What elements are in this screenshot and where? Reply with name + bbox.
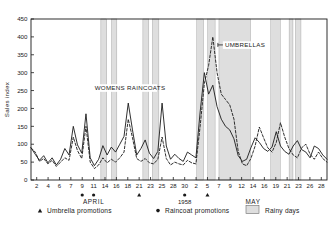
x-tick-label: 14 — [250, 183, 257, 189]
y-axis: 050100150200250300350400450Sales index — [3, 15, 34, 183]
y-tick-label: 450 — [17, 15, 28, 22]
y-tick-label: 350 — [17, 51, 28, 58]
raincoat-promotion-marker — [92, 193, 95, 196]
y-tick-label: 50 — [21, 158, 28, 165]
x-tick-label: 7 — [69, 183, 73, 189]
rainy-day-band — [143, 19, 149, 180]
y-tick-label: 400 — [17, 33, 28, 40]
x-tick-label: 28 — [318, 183, 325, 189]
legend-dot-icon — [156, 209, 160, 213]
annotation-label: UMBRELLAS — [225, 41, 265, 48]
plot-frame — [31, 19, 327, 180]
umbrella-promotion-marker — [137, 193, 141, 197]
year-label: 1958 — [178, 199, 192, 205]
month-label: APRIL — [83, 198, 104, 205]
x-tick-label: 2 — [35, 183, 39, 189]
legend-swatch-icon — [246, 206, 259, 214]
x-tick-label: 25 — [159, 183, 166, 189]
legend-label: Raincoat promotions — [165, 207, 230, 215]
x-tick-label: 11 — [91, 183, 98, 189]
rainy-day-band — [101, 19, 107, 180]
x-tick-label: 18 — [124, 183, 131, 189]
x-tick-label: 6 — [58, 183, 62, 189]
x-tick-label: 16 — [113, 183, 120, 189]
plot-border — [31, 19, 327, 180]
x-tick-label: 21 — [284, 183, 291, 189]
x-tick-label: 28 — [170, 183, 177, 189]
x-tick-label: 19 — [272, 183, 279, 189]
x-tick-label: 26 — [307, 183, 314, 189]
x-tick-label: 23 — [147, 183, 154, 189]
x-tick-label: 2 — [194, 183, 198, 189]
month-label: MAY — [245, 198, 260, 205]
y-tick-label: 200 — [17, 105, 28, 112]
y-tick-label: 100 — [17, 140, 28, 147]
x-tick-label: 23 — [295, 183, 302, 189]
y-tick-label: 150 — [17, 123, 28, 130]
data-series — [31, 37, 327, 169]
legend-label: Umbrella promotions — [47, 207, 112, 215]
rainy-day-band — [271, 19, 280, 180]
y-axis-title: Sales index — [3, 81, 10, 117]
x-tick-label: 5 — [206, 183, 210, 189]
promotion-markers — [81, 193, 210, 197]
umbrella-promotion-marker — [205, 193, 209, 197]
y-tick-label: 250 — [17, 87, 28, 94]
legend-triangle-icon — [38, 209, 42, 213]
x-tick-label: 30 — [181, 183, 188, 189]
annotation-label: WOMENS RAINCOATS — [95, 84, 166, 91]
x-tick-label: 9 — [81, 183, 85, 189]
y-tick-label: 300 — [17, 69, 28, 76]
x-axis: 2467911141618212325283025791214161921232… — [35, 177, 325, 189]
sales-index-chart: 050100150200250300350400450Sales index 2… — [0, 0, 336, 228]
x-tick-label: 16 — [261, 183, 268, 189]
rainy-day-band — [289, 19, 293, 180]
raincoat-promotion-marker — [183, 193, 186, 196]
x-tick-label: 14 — [102, 183, 109, 189]
x-tick-label: 21 — [136, 183, 143, 189]
x-tick-label: 4 — [46, 183, 50, 189]
chart-canvas: 050100150200250300350400450Sales index 2… — [0, 0, 336, 228]
x-tick-label: 12 — [238, 183, 245, 189]
month-labels: APRILMAY1958 — [83, 198, 261, 205]
x-tick-label: 7 — [217, 183, 221, 189]
legend-label: Rainy days — [265, 207, 300, 215]
x-tick-label: 9 — [229, 183, 233, 189]
rainy-day-bands — [101, 19, 301, 180]
raincoat-promotion-marker — [81, 193, 84, 196]
rainy-day-band — [112, 19, 117, 180]
y-tick-label: 0 — [24, 176, 28, 183]
chart-legend: Umbrella promotionsRaincoat promotionsRa… — [38, 206, 300, 216]
series-line-raincoats — [31, 73, 327, 166]
